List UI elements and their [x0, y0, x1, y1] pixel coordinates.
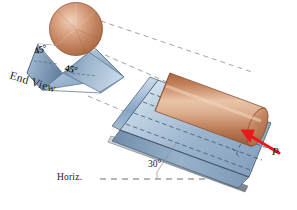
figure-canvas	[0, 0, 297, 210]
force-label-P: P	[272, 145, 279, 157]
incline-angle-label: 30°	[148, 159, 161, 169]
horizontal-label: Horiz.	[57, 172, 82, 182]
projection-line-top	[101, 21, 252, 72]
